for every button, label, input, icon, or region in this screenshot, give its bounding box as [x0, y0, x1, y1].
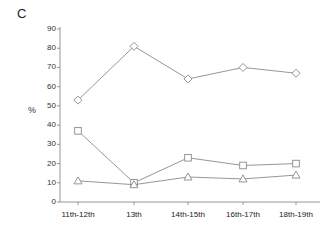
marker-square — [185, 154, 192, 161]
y-tick-label: 20 — [40, 159, 56, 168]
marker-square — [75, 128, 82, 135]
x-tick-label: 11th-12th — [61, 210, 94, 219]
marker-square — [240, 162, 247, 169]
panel-label-c: C — [17, 6, 27, 21]
y-tick-label: 70 — [40, 62, 56, 71]
series-line — [78, 46, 296, 100]
marker-square — [293, 160, 300, 167]
x-tick-label: 16th-17th — [226, 210, 260, 219]
y-tick-label: 40 — [40, 120, 56, 129]
marker-triangle — [184, 173, 192, 180]
x-tick-label: 13th — [126, 210, 142, 219]
chart-figure: C % 90 80 70 60 50 40 30 20 10 0 11th-12… — [0, 0, 327, 238]
y-tick-label: 10 — [40, 178, 56, 187]
y-tick-label: 90 — [40, 24, 56, 33]
y-axis-title: % — [28, 105, 36, 115]
series-layer — [74, 42, 300, 187]
y-tick-label: 0 — [40, 197, 56, 206]
y-tick-label: 80 — [40, 43, 56, 52]
marker-triangle — [292, 171, 300, 178]
x-tick-label: 14th-15th — [171, 210, 205, 219]
series-diamond — [74, 42, 300, 104]
y-tick-label: 50 — [40, 101, 56, 110]
y-tick-label: 60 — [40, 82, 56, 91]
marker-diamond — [239, 63, 247, 71]
series-triangle — [74, 171, 300, 188]
y-tick-label: 30 — [40, 139, 56, 148]
x-tick-label: 18th-19th — [279, 210, 313, 219]
marker-triangle — [74, 177, 82, 184]
marker-diamond — [292, 69, 300, 77]
marker-diamond — [184, 75, 192, 83]
